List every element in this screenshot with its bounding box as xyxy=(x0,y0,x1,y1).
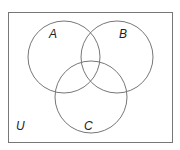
set-c-label: C xyxy=(84,119,93,133)
venn-diagram: A B C U xyxy=(0,0,180,150)
set-a-label: A xyxy=(48,27,57,41)
set-b-circle xyxy=(81,21,153,93)
set-a-circle xyxy=(28,21,100,93)
universe-label: U xyxy=(16,119,25,133)
set-b-label: B xyxy=(119,27,127,41)
